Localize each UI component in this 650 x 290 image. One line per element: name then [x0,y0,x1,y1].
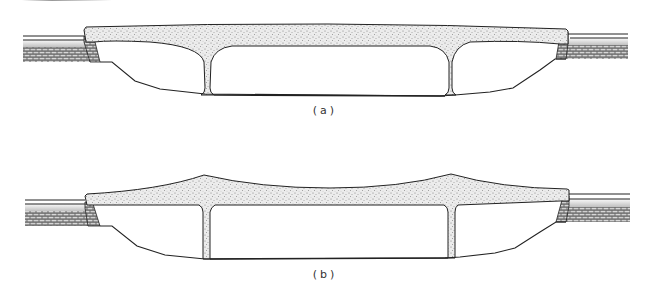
hull-outline-a [100,59,566,96]
caption-a: (a) [0,104,650,117]
hull-outline-b [100,222,566,259]
left-approach-embankment-b [25,200,95,226]
bottom-slab-line-b [210,258,448,259]
bottom-slab-line-a [214,95,445,96]
deck-slab-a [84,24,568,95]
caption-b: (b) [0,268,650,281]
right-approach-embankment [560,34,628,59]
right-approach-embankment-b [560,194,630,222]
deck-slab-b [85,174,569,259]
figure-panel-a: (a) [0,0,650,125]
left-abutment-b [85,202,100,226]
figure-panel-b: (b) [0,140,650,290]
